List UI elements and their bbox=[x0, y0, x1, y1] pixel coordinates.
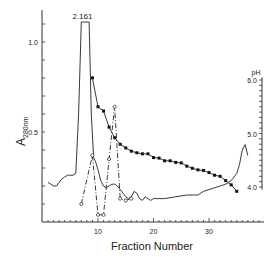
ph-marker bbox=[163, 159, 166, 162]
open-circle-marker bbox=[80, 202, 83, 205]
x-tick-label: 10 bbox=[94, 228, 102, 235]
x-axis-label: Fraction Number bbox=[111, 240, 193, 252]
y-tick-label: 1.0 bbox=[28, 39, 38, 46]
ph-marker bbox=[124, 146, 127, 149]
ph-marker bbox=[119, 143, 122, 146]
axes: 1020300.51.04.05.06.0 bbox=[28, 10, 264, 235]
ph-marker bbox=[97, 105, 100, 108]
axis-labels: Fraction Number A280nm pH 2.161 bbox=[14, 12, 260, 252]
y-tick-label: 0.5 bbox=[28, 129, 38, 136]
y2-tick-label: 5.0 bbox=[247, 131, 257, 138]
open-circle-marker bbox=[130, 197, 133, 200]
open-circle-marker bbox=[113, 105, 116, 108]
ph-marker bbox=[208, 171, 211, 174]
ph-marker bbox=[219, 175, 222, 178]
y2-tick-label: 6.0 bbox=[247, 77, 257, 84]
x-tick-label: 30 bbox=[205, 228, 213, 235]
open-circle-marker bbox=[96, 213, 99, 216]
plot-series bbox=[48, 22, 248, 216]
absorbance-curve bbox=[48, 22, 248, 200]
ph-marker bbox=[158, 157, 161, 160]
ph-marker bbox=[196, 168, 199, 171]
y2-tick-label: 4.0 bbox=[247, 184, 257, 191]
ph-marker bbox=[108, 126, 111, 129]
ph-marker bbox=[135, 151, 138, 154]
dashdot-absorbance-curve bbox=[81, 107, 131, 215]
ph-marker bbox=[146, 152, 149, 155]
ph-marker bbox=[224, 179, 227, 182]
x-tick-label: 20 bbox=[150, 228, 158, 235]
ph-marker bbox=[185, 165, 188, 168]
ph-marker bbox=[235, 190, 238, 193]
ph-marker bbox=[169, 159, 172, 162]
ph-marker bbox=[202, 169, 205, 172]
ph-marker bbox=[180, 161, 183, 164]
open-circle-marker bbox=[119, 197, 122, 200]
ph-marker bbox=[130, 150, 133, 153]
chromatography-chart: 1020300.51.04.05.06.0 Fraction Number A2… bbox=[0, 0, 273, 257]
open-circle-marker bbox=[108, 157, 111, 160]
y2-axis-label: pH bbox=[252, 69, 261, 77]
open-circle-marker bbox=[102, 213, 105, 216]
open-circle-marker bbox=[124, 199, 127, 202]
peak-annotation: 2.161 bbox=[72, 12, 93, 21]
ph-marker bbox=[113, 136, 116, 139]
y-axis-label: A280nm bbox=[14, 116, 29, 146]
open-circle-marker bbox=[91, 154, 94, 157]
ph-marker bbox=[102, 110, 105, 113]
ph-marker bbox=[174, 161, 177, 164]
ph-marker bbox=[152, 156, 155, 159]
ph-marker bbox=[230, 183, 233, 186]
ph-marker bbox=[141, 152, 144, 155]
ph-marker bbox=[213, 174, 216, 177]
ph-marker bbox=[91, 76, 94, 79]
ph-marker bbox=[191, 167, 194, 170]
